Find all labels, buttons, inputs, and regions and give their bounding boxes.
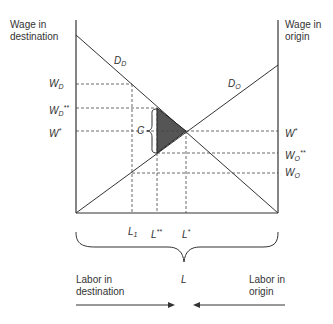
wage-wo-star-star-label: WO** <box>285 147 305 165</box>
right-axis-title-line1: Wage in <box>285 19 321 31</box>
labor-origin-line2: origin <box>249 286 285 298</box>
left-axis-title: Wage in destination <box>10 19 58 43</box>
left-axis-title-line1: Wage in <box>10 19 58 31</box>
labor-destination-line2: destination <box>76 286 124 298</box>
labor-destination-line1: Labor in <box>76 274 124 286</box>
wage-w-star-right-label: W* <box>285 125 297 140</box>
wage-wo-label: WO <box>285 167 300 182</box>
total-labor-label: L <box>181 274 187 286</box>
total-labor-brace <box>76 232 278 262</box>
labor-l-star-star-label: L** <box>151 226 162 241</box>
labor-origin-label: Labor in origin <box>249 274 285 298</box>
demand-origin-curve <box>76 65 278 213</box>
origin-arrow-head <box>193 302 200 308</box>
left-axis-title-line2: destination <box>10 31 58 43</box>
labor-l1-label: L1 <box>128 226 137 241</box>
demand-destination-label: DD <box>114 55 126 70</box>
destination-arrow-head <box>168 302 175 308</box>
cost-label: C <box>137 125 144 137</box>
wage-wd-label: WD <box>49 78 64 93</box>
labor-origin-line1: Labor in <box>249 274 285 286</box>
right-axis-title: Wage in origin <box>285 19 321 43</box>
labor-l-star-label: L* <box>182 226 190 241</box>
labor-destination-label: Labor in destination <box>76 274 124 298</box>
deadweight-triangle <box>157 108 186 153</box>
wage-w-star-left-label: W* <box>49 125 61 140</box>
right-axis-title-line2: origin <box>285 31 321 43</box>
demand-origin-label: DO <box>228 78 241 93</box>
wage-wd-star-star-label: WD** <box>49 102 69 120</box>
